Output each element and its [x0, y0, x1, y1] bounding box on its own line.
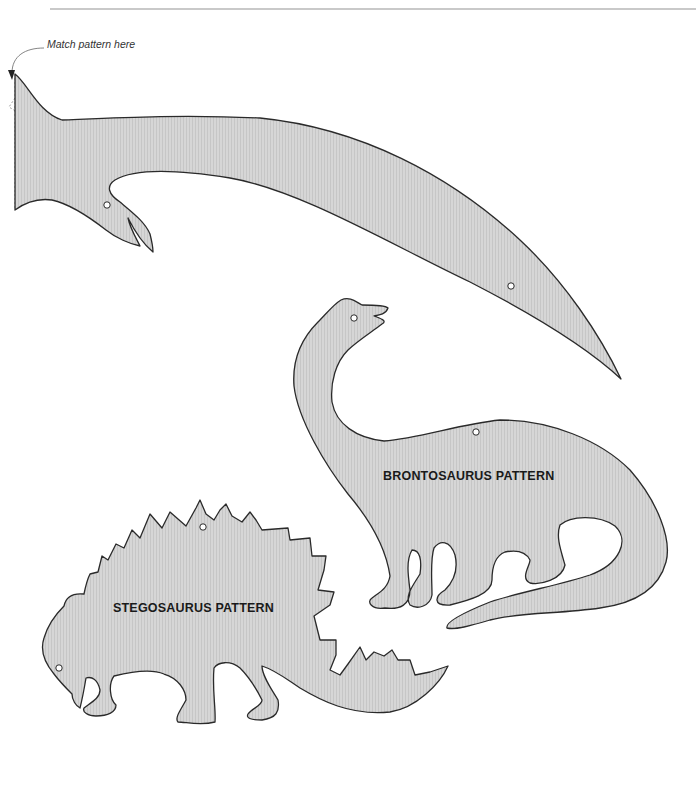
- hanging-hole-icon: [200, 524, 206, 530]
- annotation-arrow-icon: [8, 48, 44, 80]
- brontosaurus-label: BRONTOSAURUS PATTERN: [383, 469, 554, 483]
- brontosaurus-pattern: [294, 299, 668, 629]
- hanging-hole-icon: [56, 665, 62, 671]
- patterns-artwork: [0, 0, 696, 785]
- hanging-hole-icon: [508, 283, 514, 289]
- hanging-hole-icon: [104, 202, 110, 208]
- hanging-hole-icon: [351, 315, 357, 321]
- hanging-hole-icon: [473, 429, 479, 435]
- stegosaurus-label: STEGOSAURUS PATTERN: [113, 601, 274, 615]
